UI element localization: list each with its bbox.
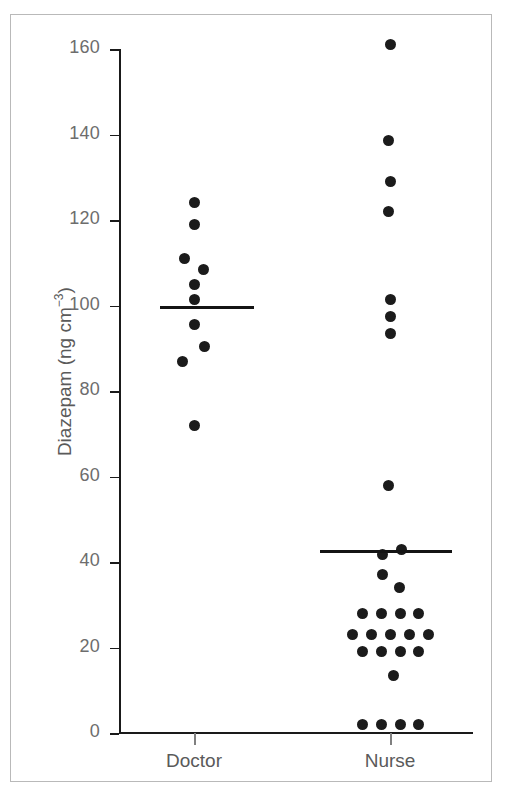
data-point-nurse-23 <box>395 646 406 657</box>
data-point-nurse-6 <box>385 328 396 339</box>
data-point-doctor-7 <box>199 341 210 352</box>
y-tick-0 <box>110 733 119 735</box>
y-tick-140 <box>110 135 119 137</box>
data-point-nurse-10 <box>377 569 388 580</box>
data-point-nurse-14 <box>395 608 406 619</box>
data-point-doctor-4 <box>189 279 200 290</box>
data-point-nurse-19 <box>404 629 415 640</box>
data-point-doctor-1 <box>189 219 200 230</box>
data-point-doctor-2 <box>179 253 190 264</box>
y-tick-160 <box>110 49 119 51</box>
y-tick-label-text: 60 <box>80 465 100 486</box>
data-point-nurse-5 <box>385 311 396 322</box>
data-point-nurse-7 <box>383 480 394 491</box>
figure-root: 020406080100120140160 DoctorNurse Diazep… <box>0 0 508 795</box>
x-tick-nurse <box>390 733 392 745</box>
data-point-nurse-4 <box>385 294 396 305</box>
data-point-nurse-15 <box>413 608 424 619</box>
y-tick-label-text: 20 <box>80 636 100 657</box>
y-tick-60 <box>110 477 119 479</box>
y-tick-120 <box>110 220 119 222</box>
mean-line-doctor <box>160 306 254 309</box>
y-tick-40 <box>110 562 119 564</box>
y-axis-title-superscript: −3 <box>52 294 66 308</box>
data-point-nurse-29 <box>413 719 424 730</box>
x-tick-doctor <box>194 733 196 745</box>
plot-area: 020406080100120140160 DoctorNurse Diazep… <box>0 0 508 795</box>
data-point-nurse-12 <box>357 608 368 619</box>
y-tick-label-text: 0 <box>90 721 100 742</box>
data-point-nurse-24 <box>413 646 424 657</box>
data-point-doctor-8 <box>177 356 188 367</box>
data-point-nurse-21 <box>357 646 368 657</box>
data-point-doctor-5 <box>189 294 200 305</box>
y-tick-label-text: 140 <box>69 123 100 144</box>
data-point-nurse-20 <box>423 629 434 640</box>
x-axis-line <box>119 732 473 734</box>
y-tick-label-text: 40 <box>80 550 100 571</box>
data-point-nurse-22 <box>376 646 387 657</box>
data-point-doctor-0 <box>189 197 200 208</box>
y-axis-title: Diazepam (ng cm−3) <box>52 242 75 502</box>
data-point-doctor-3 <box>198 264 209 275</box>
x-tick-label-nurse: Nurse <box>320 750 460 772</box>
data-point-nurse-17 <box>366 629 377 640</box>
y-tick-label-text: 80 <box>80 379 100 400</box>
data-point-nurse-26 <box>357 719 368 730</box>
y-tick-100 <box>110 306 119 308</box>
data-point-nurse-13 <box>376 608 387 619</box>
y-tick-label-text: 120 <box>69 208 100 229</box>
data-point-nurse-25 <box>388 670 399 681</box>
y-tick-80 <box>110 391 119 393</box>
y-tick-20 <box>110 648 119 650</box>
data-point-doctor-9 <box>189 420 200 431</box>
data-point-nurse-2 <box>385 176 396 187</box>
data-point-nurse-27 <box>376 719 387 730</box>
y-tick-label-text: 160 <box>69 37 100 58</box>
data-point-nurse-11 <box>394 582 405 593</box>
y-axis-title-tail: ) <box>54 287 75 293</box>
data-point-nurse-3 <box>383 206 394 217</box>
data-point-nurse-1 <box>383 135 394 146</box>
y-axis-title-text: Diazepam (ng cm <box>54 307 75 456</box>
data-point-nurse-18 <box>385 629 396 640</box>
data-point-doctor-6 <box>189 319 200 330</box>
data-point-nurse-16 <box>347 629 358 640</box>
data-point-nurse-28 <box>395 719 406 730</box>
mean-line-nurse <box>320 550 452 553</box>
x-tick-label-doctor: Doctor <box>124 750 264 772</box>
data-point-nurse-0 <box>385 39 396 50</box>
y-axis-line <box>119 49 121 734</box>
